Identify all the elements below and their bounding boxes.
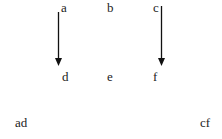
arrow-a-to-d-icon bbox=[55, 12, 62, 66]
arrows-layer bbox=[0, 0, 222, 139]
arrow-c-to-f-icon bbox=[158, 6, 165, 66]
